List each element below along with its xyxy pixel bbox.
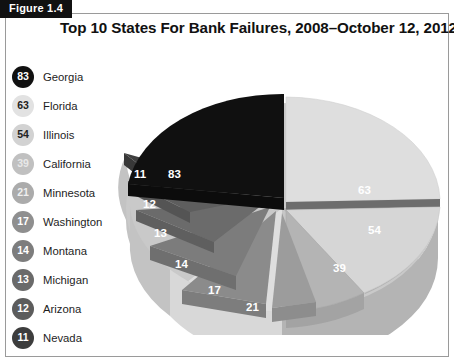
- slice-label-illinois: 54: [368, 224, 381, 236]
- legend-badge-florida: 63: [12, 95, 34, 117]
- legend-label-arizona: Arizona: [43, 303, 81, 315]
- legend-label-minnesota: Minnesota: [43, 187, 95, 199]
- slice-label-arizona: 12: [143, 198, 156, 210]
- legend-badge-california: 39: [12, 153, 34, 175]
- slice-label-florida: 63: [358, 184, 371, 196]
- legend-label-illinois: Illinois: [43, 129, 74, 141]
- figure-container: Figure 1.4 Top 10 States For Bank Failur…: [0, 0, 454, 363]
- legend-badge-nevada: 11: [12, 327, 34, 349]
- legend-item-georgia[interactable]: 83 Georgia: [12, 62, 124, 91]
- legend-item-florida[interactable]: 63 Florida: [12, 91, 124, 120]
- legend-badge-arizona: 12: [12, 298, 34, 320]
- slice-label-minnesota: 21: [246, 301, 259, 313]
- legend-label-montana: Montana: [43, 245, 87, 257]
- legend-item-illinois[interactable]: 54 Illinois: [12, 120, 124, 149]
- legend-badge-illinois: 54: [12, 124, 34, 146]
- slice-label-washington: 17: [208, 284, 221, 296]
- legend-label-california: California: [43, 158, 91, 170]
- slice-label-michigan: 13: [154, 227, 167, 239]
- slice-label-georgia: 83: [168, 168, 181, 180]
- legend-badge-montana: 14: [12, 240, 34, 262]
- figure-tag: Figure 1.4: [0, 0, 72, 18]
- legend-item-california[interactable]: 39 California: [12, 149, 124, 178]
- legend-item-washington[interactable]: 17 Washington: [12, 207, 124, 236]
- legend-label-washington: Washington: [43, 216, 102, 228]
- chart-title: Top 10 States For Bank Failures, 2008–Oc…: [60, 19, 446, 36]
- legend-item-montana[interactable]: 14 Montana: [12, 236, 124, 265]
- pie-chart-3d: 83 63 54 39 21 17 14 13 12 11: [118, 50, 448, 335]
- slice-label-california: 39: [333, 262, 346, 274]
- slice-label-nevada: 11: [134, 168, 147, 180]
- legend-item-nevada[interactable]: 11 Nevada: [12, 323, 124, 352]
- legend-item-michigan[interactable]: 13 Michigan: [12, 265, 124, 294]
- pie-chart-svg: 83 63 54 39 21 17 14 13 12 11: [118, 50, 448, 335]
- legend: 83 Georgia 63 Florida 54 Illinois 39 Cal…: [12, 62, 124, 352]
- legend-item-arizona[interactable]: 12 Arizona: [12, 294, 124, 323]
- pie-slice-georgia[interactable]: [128, 94, 284, 210]
- legend-badge-washington: 17: [12, 211, 34, 233]
- legend-item-minnesota[interactable]: 21 Minnesota: [12, 178, 124, 207]
- legend-badge-minnesota: 21: [12, 182, 34, 204]
- legend-label-georgia: Georgia: [43, 71, 83, 83]
- legend-label-nevada: Nevada: [43, 332, 82, 344]
- legend-badge-georgia: 83: [12, 66, 34, 88]
- legend-label-florida: Florida: [43, 100, 78, 112]
- legend-label-michigan: Michigan: [43, 274, 88, 286]
- legend-badge-michigan: 13: [12, 269, 34, 291]
- slice-label-montana: 14: [175, 258, 188, 270]
